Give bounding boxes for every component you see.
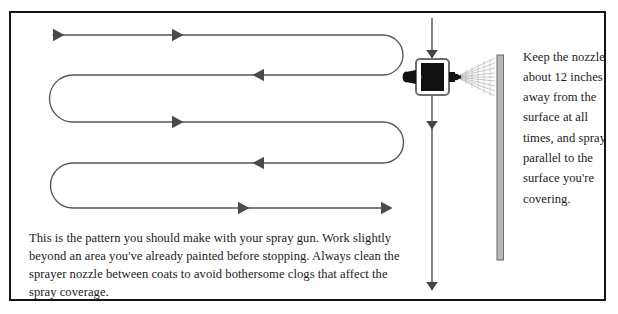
side-note-text: Keep the nozzle about 12 inches away fro… (523, 47, 607, 209)
path-arrow-row4-mid (253, 157, 265, 169)
serpentine-spray-path (49, 35, 403, 208)
path-arrow-row1-start (53, 29, 65, 41)
spray-gun (403, 59, 461, 95)
path-arrow-row5-mid (238, 202, 250, 214)
figure-caption: This is the pattern you should make with… (29, 229, 411, 301)
wall-surface (497, 55, 504, 260)
spray-pattern-figure: This is the pattern you should make with… (0, 0, 618, 314)
path-arrow-row5-end (381, 202, 393, 214)
spray-fan (456, 58, 495, 96)
path-arrow-row2-mid (253, 69, 265, 81)
path-arrow-row1-mid (172, 29, 184, 41)
path-arrow-row3-mid (172, 116, 184, 128)
